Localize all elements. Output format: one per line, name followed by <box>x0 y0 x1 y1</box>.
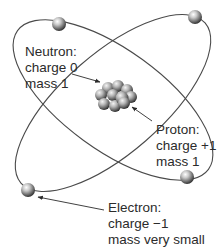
proton-arrow <box>132 107 152 121</box>
electron-name: Electron: <box>108 200 205 216</box>
electron-particle <box>188 10 202 24</box>
nucleus <box>95 80 137 112</box>
proton-label: Proton: charge +1 mass 1 <box>156 122 216 170</box>
neutron-name: Neutron: <box>25 44 78 60</box>
proton-charge: charge +1 <box>156 138 216 154</box>
nucleon-particle <box>118 97 130 109</box>
electron-label: Electron: charge −1 mass very small <box>108 200 205 248</box>
electron-particle <box>52 17 66 31</box>
electron-charge: charge −1 <box>108 216 205 232</box>
proton-mass: mass 1 <box>156 154 216 170</box>
neutron-mass: mass 1 <box>25 76 78 92</box>
proton-name: Proton: <box>156 122 216 138</box>
nucleon-particle <box>98 98 110 110</box>
electron-mass: mass very small <box>108 232 205 248</box>
electron-arrow <box>38 197 104 210</box>
electron-particle <box>180 170 194 184</box>
electron-particle <box>21 183 35 197</box>
neutron-label: Neutron: charge 0 mass 1 <box>25 44 78 92</box>
neutron-charge: charge 0 <box>25 60 78 76</box>
